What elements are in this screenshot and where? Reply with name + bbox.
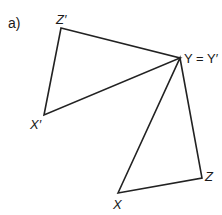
label-x: X	[113, 198, 122, 211]
label-z-prime: Z′	[56, 13, 66, 26]
label-z: Z	[205, 170, 213, 183]
label-y-equals-y-prime: Y = Y′	[184, 52, 218, 65]
label-x-prime: X′	[30, 118, 41, 131]
rotation-diagram	[0, 0, 222, 215]
